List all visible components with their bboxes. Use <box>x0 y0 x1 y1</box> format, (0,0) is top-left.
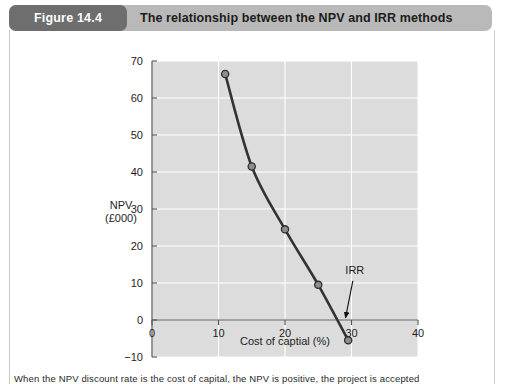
chart-area: −10010203040506070 010203040 NPV (£000) … <box>0 36 505 366</box>
npv-irr-line-chart: −10010203040506070 010203040 NPV (£000) … <box>0 36 505 366</box>
x-tick-label: 0 <box>149 327 155 339</box>
y-tick-label: 0 <box>137 314 143 326</box>
figure-number-badge: Figure 14.4 <box>9 5 127 31</box>
figure-container: Figure 14.4 The relationship between the… <box>0 0 505 384</box>
y-tick-label: 20 <box>131 240 143 252</box>
data-point-marker <box>248 163 255 170</box>
y-axis-title-line1: NPV <box>110 199 133 211</box>
figure-caption-clip: When the NPV discount rate is the cost o… <box>14 373 490 384</box>
y-axis-title-line2: (£000) <box>105 212 137 224</box>
y-tick-label: 50 <box>131 129 143 141</box>
figure-header-bar: Figure 14.4 The relationship between the… <box>9 5 492 31</box>
figure-caption-text: When the NPV discount rate is the cost o… <box>14 373 490 384</box>
irr-annotation-label: IRR <box>345 264 364 276</box>
y-tick-label: 70 <box>131 55 143 67</box>
data-point-marker <box>281 226 288 233</box>
y-tick-label: 10 <box>131 277 143 289</box>
data-point-marker <box>315 281 322 288</box>
data-point-marker <box>222 70 229 77</box>
y-tick-label: 60 <box>131 92 143 104</box>
data-point-marker <box>345 337 352 344</box>
x-tick-label: 40 <box>412 327 424 339</box>
figure-title: The relationship between the NPV and IRR… <box>140 5 452 31</box>
y-tick-label: −10 <box>124 351 143 363</box>
y-tick-label: 40 <box>131 166 143 178</box>
x-axis-title: Cost of captial (%) <box>240 335 330 347</box>
x-tick-label: 10 <box>212 327 224 339</box>
